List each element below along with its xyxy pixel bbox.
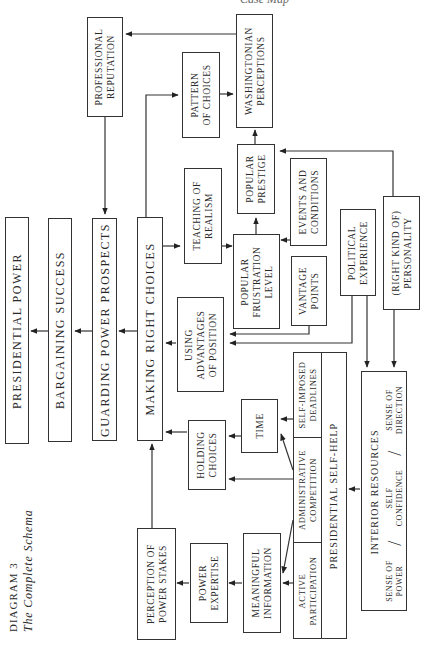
node-power-expertise: POWEREXPERTISE <box>190 543 228 623</box>
node-time: TIME <box>241 399 278 453</box>
node-label: (RIGHT KIND OF)PERSONALITY <box>390 211 414 296</box>
node-label: WASHINGTONIANPERCEPTIONS <box>243 27 267 115</box>
node-label: MAKING RIGHT CHOICES <box>144 242 156 415</box>
node-label: POWEREXPERTISE <box>197 556 221 611</box>
node-label: ACTIVEPARTICIPATION <box>297 556 319 625</box>
node-label: SELF-IMPOSEDDEADLINES <box>297 361 319 428</box>
node-label: POLITICALEXPERIENCE <box>346 220 370 284</box>
node-label: PRESIDENTIAL POWER <box>11 252 23 408</box>
node-presidential-self-help-group: SELF-IMPOSEDDEADLINES ADMINISTRATIVECOMP… <box>293 352 347 639</box>
node-administrative-competition: ADMINISTRATIVECOMPETITION <box>294 438 322 543</box>
node-label: BARGAINING SUCCESS <box>54 251 66 409</box>
node-interior-resources: INTERIOR RESOURCES SENSE OFPOWER / SELFC… <box>361 371 407 611</box>
diagram-title: The Complete Schema <box>21 509 36 632</box>
node-label: EVENTS ANDCONDITIONS <box>297 170 321 235</box>
node-vantage-points: VANTAGEPOINTS <box>291 256 327 326</box>
node-popular-frustration-level: POPULARFRUSTRATIONLEVEL <box>233 234 280 329</box>
diagram-label: DIAGRAM 3 <box>7 562 19 632</box>
node-using-advantages-of-position: USINGADVANTAGESOF POSITION <box>177 297 224 392</box>
node-label: PRESIDENTIAL SELF-HELP <box>328 422 340 568</box>
node-label: TEACHING OFREALISM <box>191 181 215 251</box>
node-right-kind-of-personality: (RIGHT KIND OF)PERSONALITY <box>383 196 420 310</box>
node-professional-reputation: PROFESSIONALREPUTATION <box>87 17 123 117</box>
node-label: POPULARFRUSTRATIONLEVEL <box>239 246 275 317</box>
node-bargaining-success: BARGAINING SUCCESS <box>48 218 72 442</box>
node-holding-choices: HOLDINGCHOICES <box>188 420 226 490</box>
node-label: POPULARPRESTIGE <box>244 154 268 203</box>
node-presidential-self-help: PRESIDENTIAL SELF-HELP <box>322 353 346 638</box>
node-political-experience: POLITICALEXPERIENCE <box>340 209 376 296</box>
node-sense-of-direction: SENSE OFDIRECTION <box>383 376 407 444</box>
node-meaningful-information: MEANINGFULINFORMATION <box>243 533 281 633</box>
node-label: ADMINISTRATIVECOMPETITION <box>297 450 319 530</box>
node-label: PERCEPTION OFPOWER STAKES <box>145 544 169 624</box>
node-popular-prestige: POPULARPRESTIGE <box>237 144 275 214</box>
node-teaching-of-realism: TEACHING OFREALISM <box>184 168 222 264</box>
separator-slash: / <box>383 444 407 462</box>
node-label: MEANINGFULINFORMATION <box>250 547 274 619</box>
node-label: HOLDINGCHOICES <box>195 431 219 478</box>
node-label: PATTERNOF CHOICES <box>189 64 213 125</box>
node-sense-of-power: SENSE OFPOWER <box>383 552 407 610</box>
node-making-right-choices: MAKING RIGHT CHOICES <box>137 217 163 441</box>
node-washingtonian-perceptions: WASHINGTONIANPERCEPTIONS <box>236 14 273 128</box>
node-label: TIME <box>254 413 266 439</box>
interior-resources-title: INTERIOR RESOURCES <box>365 372 385 612</box>
node-perception-of-power-stakes: PERCEPTION OFPOWER STAKES <box>137 528 176 640</box>
node-label: PROFESSIONALREPUTATION <box>93 29 117 106</box>
node-label: VANTAGEPOINTS <box>297 267 321 315</box>
node-label: GUARDING POWER PROSPECTS <box>99 222 111 436</box>
node-self-confidence: SELFCONFIDENCE <box>383 462 407 534</box>
node-label: USINGADVANTAGESOF POSITION <box>183 310 219 379</box>
node-presidential-power: PRESIDENTIAL POWER <box>5 217 29 444</box>
separator-slash: / <box>383 534 407 552</box>
node-pattern-of-choices: PATTERNOF CHOICES <box>182 52 220 138</box>
node-active-participation: ACTIVEPARTICIPATION <box>294 543 322 638</box>
node-events-and-conditions: EVENTS ANDCONDITIONS <box>290 158 327 246</box>
node-self-imposed-deadlines: SELF-IMPOSEDDEADLINES <box>294 353 322 438</box>
node-guarding-power-prospects: GUARDING POWER PROSPECTS <box>92 218 117 441</box>
